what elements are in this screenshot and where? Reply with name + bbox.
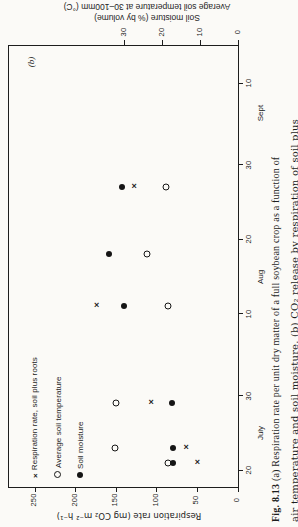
legend-item-label: Soil moisture [76, 421, 85, 469]
top-axis-tick [124, 40, 125, 45]
bottom-axis-tick [116, 487, 117, 492]
bottom-axis-tick-label: 100 [152, 493, 160, 506]
data-point-respiration-x: × [183, 443, 188, 452]
data-point-soil-temperature [162, 184, 169, 191]
date-axis-tick-label: 10 [245, 79, 253, 88]
legend-item: ×Respiration rate, soil plus roots [31, 357, 40, 478]
caption-line-2: air temperature and soil moisture. (b) C… [290, 119, 298, 522]
data-point-soil-temperature [143, 251, 150, 258]
data-point-soil-temperature [164, 303, 171, 310]
data-point-respiration-x: × [195, 458, 200, 467]
date-axis-month-label: Aug [257, 269, 265, 283]
date-axis-month-label: July [257, 426, 265, 440]
top-axis-tick [238, 40, 239, 45]
legend-item: Soil moisture [77, 421, 85, 478]
date-axis-tick [238, 239, 243, 240]
bottom-axis-tick-label: 0 [233, 498, 241, 502]
x-marker-icon: × [32, 473, 40, 478]
date-axis-tick-label: 10 [245, 309, 253, 318]
data-point-respiration-x: × [148, 398, 153, 407]
filled-circle-marker-icon [77, 472, 83, 478]
top-axis-tick [162, 40, 163, 45]
date-axis-tick [238, 83, 243, 84]
data-point-respiration-x: × [94, 302, 99, 311]
bottom-axis-tick [197, 487, 198, 492]
date-axis-tick-label: 30 [245, 391, 253, 400]
date-axis-tick-label: 30 [245, 161, 253, 170]
data-point-soil-moisture [169, 400, 175, 406]
caption-line-1: Fig. 8.13 (a) Respiration rate per unit … [271, 157, 281, 522]
bottom-axis-tick-label: 50 [193, 496, 201, 505]
bottom-axis-tick-label: 150 [111, 493, 119, 506]
data-point-soil-moisture [106, 251, 112, 257]
date-axis-tick [238, 470, 243, 471]
legend-item-label: Average soil temperature [54, 376, 63, 468]
bottom-axis-tick [238, 487, 239, 492]
caption-line-1-text: (a) Respiration rate per unit dry matter… [270, 157, 281, 484]
date-axis-tick [238, 313, 243, 314]
bottom-axis-tick [156, 487, 157, 492]
date-axis-tick [238, 164, 243, 165]
legend-item-label: Respiration rate, soil plus roots [30, 357, 39, 470]
date-axis-tick-label: 20 [245, 466, 253, 475]
scanned-figure-page: Average soil temperature at 30–100mm (°C… [0, 0, 298, 527]
data-point-soil-moisture [121, 303, 127, 309]
bottom-axis-title: Respiration rate (mg CO₂ m⁻² h⁻¹) [57, 512, 202, 521]
chart-layer: 3020100250200150100500203010203010JulyAu… [0, 0, 298, 527]
top-axis-tick-label: 20 [158, 28, 166, 37]
legend-item: Average soil temperature [54, 376, 63, 478]
top-axis-tick [200, 40, 201, 45]
bottom-axis-tick [75, 487, 76, 492]
caption-figure-number: Fig. 8.13 [270, 484, 281, 522]
data-point-soil-temperature [113, 400, 120, 407]
data-point-soil-moisture [119, 184, 125, 190]
bottom-axis-tick-label: 200 [71, 493, 79, 506]
data-point-soil-moisture [170, 460, 176, 466]
data-point-soil-temperature [111, 444, 118, 451]
bottom-axis-tick [35, 487, 36, 492]
date-axis-tick [238, 395, 243, 396]
date-axis-month-label: Sept [257, 105, 265, 121]
data-point-soil-moisture [170, 445, 176, 451]
bottom-axis-tick-label: 250 [30, 493, 38, 506]
top-axis-tick-label: 10 [196, 28, 204, 37]
date-axis-tick-label: 20 [245, 235, 253, 244]
open-circle-marker-icon [54, 471, 61, 478]
top-axis-tick-label: 30 [120, 28, 128, 37]
top-axis-tick-label: 0 [234, 30, 242, 34]
data-point-respiration-x: × [131, 183, 136, 192]
